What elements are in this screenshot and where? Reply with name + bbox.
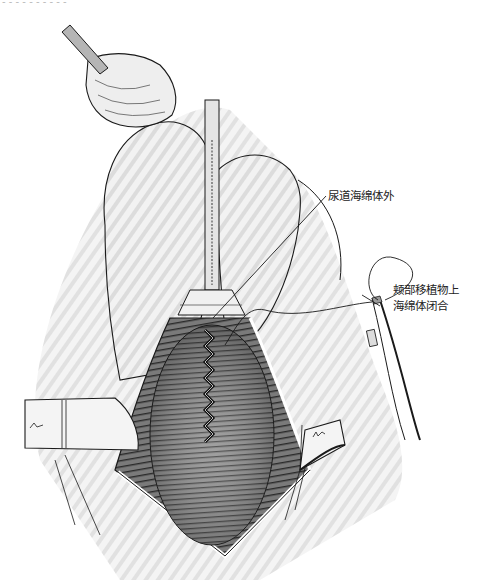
label-graft-closure-line1: 颊部移植物上 [393,282,459,298]
clamp-top-icon [62,25,108,74]
retracted-tissue [62,25,176,127]
label-graft-closure-line2: 海绵体闭合 [393,298,448,314]
label-urethral-spongiosum-outer: 尿道海绵体外 [328,188,394,204]
